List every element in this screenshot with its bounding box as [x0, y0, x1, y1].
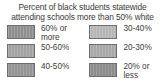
legend-item[interactable]: 40-50%	[7, 62, 83, 81]
legend-title-line-1: Percent of black students statewide	[0, 2, 165, 12]
legend-item[interactable]: 30-40%	[89, 24, 165, 43]
legend-title-line-2: attending schools more than 50% white	[0, 12, 165, 22]
legend-item[interactable]: 50-60%	[7, 43, 83, 62]
legend-item[interactable]: 20-30%	[89, 43, 165, 62]
map-legend: Percent of black students statewide atte…	[0, 0, 165, 81]
legend-item-label: 60% or more	[41, 24, 67, 43]
legend-column-left: 60% or more 50-60% 40-50%	[0, 24, 83, 81]
legend-swatch-icon	[89, 44, 117, 58]
legend-item-label: 30-40%	[123, 24, 151, 33]
legend-item-label: 20-30%	[123, 43, 151, 52]
legend-swatch-icon	[89, 25, 117, 39]
legend-column-right: 30-40% 20-30% 20% or less	[83, 24, 165, 81]
legend-item-label: 20% or less	[123, 62, 149, 81]
legend-item[interactable]: 60% or more	[7, 24, 83, 43]
legend-item[interactable]: 20% or less	[89, 62, 165, 81]
legend-grid: 60% or more 50-60% 40-50% 30-40% 20-30%	[0, 24, 165, 81]
legend-swatch-icon	[7, 44, 35, 58]
legend-item-label: 40-50%	[41, 62, 69, 71]
legend-title: Percent of black students statewide atte…	[0, 2, 165, 22]
legend-swatch-icon	[7, 25, 35, 39]
legend-swatch-icon	[7, 63, 35, 77]
legend-item-label: 50-60%	[41, 43, 69, 52]
legend-swatch-icon	[89, 63, 117, 77]
